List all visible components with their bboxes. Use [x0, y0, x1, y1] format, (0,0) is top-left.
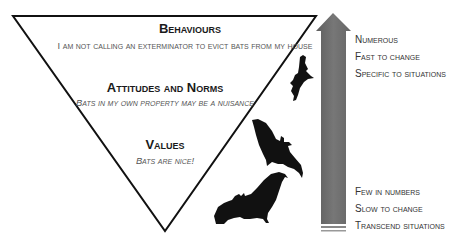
level-example-values: Bats are nice!	[120, 156, 210, 166]
level-example-behaviours: I am not calling an exterminator to evic…	[30, 41, 340, 51]
arrow-bottom-label-1: Few in numbers	[355, 186, 420, 197]
level-example-attitudes-norms: Bats in my own property may be a nuisanc…	[70, 98, 260, 108]
level-title-attitudes-norms: Attitudes and Norms	[90, 80, 240, 95]
arrow-bottom-label-2: Slow to change	[355, 203, 423, 214]
bat-small-icon	[290, 55, 314, 101]
arrow-top-label-2: Fast to change	[355, 51, 420, 62]
level-title-behaviours: Behaviours	[135, 21, 245, 36]
arrow-top-label-3: Specific to situations	[355, 68, 446, 79]
arrow-top-label-1: Numerous	[355, 34, 398, 45]
bat-large-icon	[214, 172, 288, 224]
level-title-values: Values	[130, 137, 200, 152]
arrow-bottom-label-3: Transcend situations	[355, 220, 445, 231]
bat-medium-icon	[252, 119, 303, 178]
